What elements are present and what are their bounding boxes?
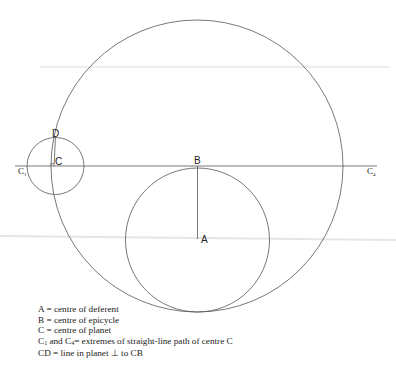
label-c1: C1 [18, 166, 27, 177]
label-c: C [55, 156, 62, 167]
legend-item-cd: CD = line in planet ⊥ to CB [38, 348, 233, 359]
label-a: A [201, 234, 208, 245]
label-b: B [194, 155, 201, 166]
label-d: D [52, 128, 59, 139]
legend-item-c1-c4: C1 and C4= extremes of straight-line pat… [38, 336, 233, 349]
legend-item-a: A = centre of deferent [38, 304, 233, 315]
legend-item-b: B = centre of epicycle [38, 315, 233, 326]
scan-artifact-line [0, 236, 396, 240]
legend-item-c: C = centre of planet [38, 325, 233, 336]
label-c4: C4 [367, 166, 376, 177]
legend: A = centre of deferent B = centre of epi… [38, 304, 233, 359]
